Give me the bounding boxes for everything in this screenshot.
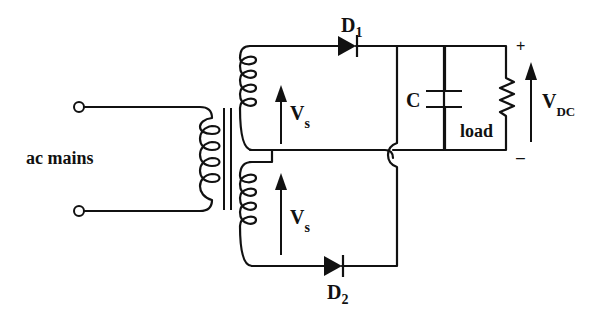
- vdc-arrow-icon: [525, 62, 537, 142]
- vs-top-arrow-icon: [275, 85, 287, 144]
- diode-d2-icon: [324, 255, 343, 277]
- vs-bottom-arrow-icon: [275, 173, 287, 255]
- vdc-label: VDC: [542, 90, 575, 119]
- d1-label: D1: [341, 14, 362, 40]
- return-wire: [342, 46, 397, 266]
- ac-input-terminals: [74, 102, 212, 216]
- plus-sign: +: [516, 37, 525, 54]
- d2-label: D2: [327, 281, 348, 307]
- transformer-core-icon: [224, 108, 231, 210]
- center-tap-wire: [250, 150, 393, 162]
- ac-mains-label: ac mains: [26, 148, 94, 168]
- secondary-coil-bottom-icon: [240, 162, 256, 266]
- input-wire-bottom: [84, 200, 212, 211]
- secondary-coil-top-icon: [240, 46, 256, 150]
- capacitor-label: C: [406, 89, 420, 111]
- terminal-bottom-icon: [74, 206, 84, 216]
- minus-sign: –: [516, 149, 525, 166]
- primary-coil-icon: [200, 118, 220, 200]
- terminal-top-icon: [74, 102, 84, 112]
- diode-d1-icon: [338, 35, 357, 57]
- load-label: load: [460, 121, 493, 141]
- vs-top-label: Vs: [290, 102, 310, 131]
- input-wire-top: [84, 107, 212, 118]
- vs-bottom-label: Vs: [290, 206, 310, 235]
- rectifier-circuit-diagram: ac mains D1 D2 Vs Vs C load VDC + –: [0, 0, 604, 323]
